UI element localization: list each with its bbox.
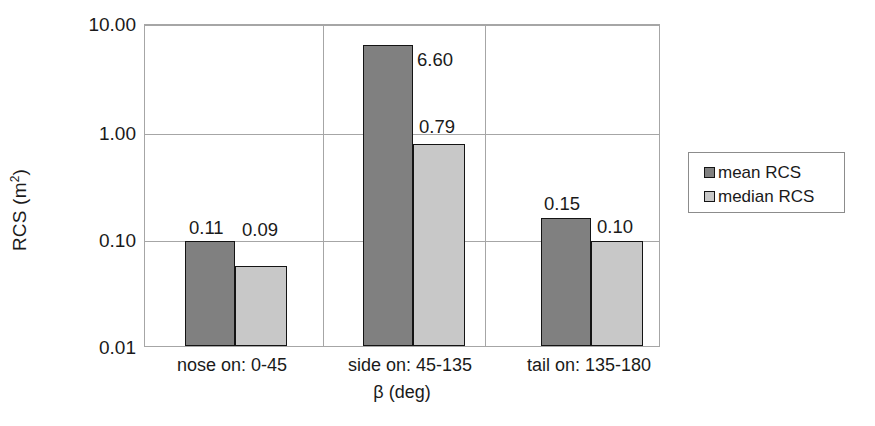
y-axis-title-close: ) (9, 169, 30, 176)
y-axis-tick-label: 10.00 (50, 15, 136, 34)
category-separator-gridline (323, 25, 324, 346)
y-axis-tick-label: 1.00 (50, 124, 136, 143)
chart-figure: RCS (m2) 10.001.000.100.01 0.110.096.600… (0, 0, 875, 426)
category-separator-gridline (485, 25, 486, 346)
y-axis-tick-label: 0.01 (50, 338, 136, 357)
y-axis-title: RCS (m2) (8, 130, 38, 290)
bar-value-label: 0.79 (419, 118, 455, 137)
horizontal-gridline (145, 25, 659, 26)
bar-value-label: 0.09 (242, 221, 278, 240)
y-axis-tick-label: 0.10 (50, 231, 136, 250)
bar-value-label: 6.60 (417, 51, 453, 70)
bar (591, 241, 643, 346)
x-axis-tick-label: nose on: 0-45 (177, 355, 287, 376)
chart-legend: mean RCSmedian RCS (688, 152, 845, 213)
bar-value-label: 0.10 (597, 218, 633, 237)
x-axis-tick-label: side on: 45-135 (348, 355, 472, 376)
bar (363, 45, 413, 346)
legend-item: mean RCS (704, 160, 844, 184)
bar (185, 241, 235, 346)
bar (541, 218, 591, 346)
x-axis-tick-label: tail on: 135-180 (527, 355, 651, 376)
plot-area: 0.110.096.600.790.150.10 (144, 24, 660, 347)
y-axis-title-exponent: 2 (8, 175, 22, 182)
legend-swatch-icon (704, 191, 715, 202)
legend-item-label: mean RCS (718, 164, 801, 181)
y-axis-title-text: RCS (m (9, 182, 30, 251)
bar (413, 144, 465, 346)
bar-value-label: 0.11 (189, 219, 224, 238)
bar-value-label: 0.15 (544, 195, 580, 214)
x-axis-title: β (deg) (373, 382, 430, 403)
bar (235, 266, 287, 346)
legend-swatch-icon (704, 167, 715, 178)
legend-item-label: median RCS (718, 188, 814, 205)
legend-item: median RCS (704, 184, 844, 208)
y-axis-tick-labels: 10.001.000.100.01 (46, 0, 136, 426)
